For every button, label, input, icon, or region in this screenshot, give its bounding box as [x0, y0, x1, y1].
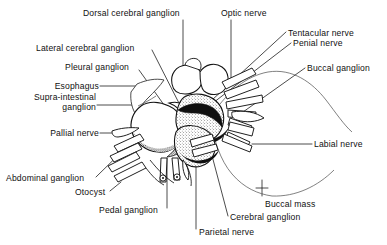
label-dorsal-cerebral-ganglion: Dorsal cerebral ganglion [83, 8, 180, 18]
label-buccal-mass: Buccal mass [265, 199, 315, 209]
label-penial-nerve: Penial nerve [293, 38, 343, 48]
label-tentacular-nerve: Tentacular nerve [288, 28, 354, 38]
label-supra-intestinal-ganglion: Supra-intestinal ganglion [0, 92, 96, 113]
label-esophagus: Esophagus [0, 81, 99, 91]
label-cerebral-ganglion: Cerebral ganglion [230, 212, 300, 222]
label-otocyst: Otocyst [75, 187, 105, 197]
label-abdominal-ganglion: Abdominal ganglion [6, 173, 84, 183]
label-buccal-ganglion: Buccal ganglion [307, 63, 370, 73]
label-labial-nerve: Labial nerve [314, 139, 363, 149]
label-parietal-nerve: Parietal nerve [199, 227, 254, 237]
label-pallial-nerve: Pallial nerve [0, 128, 99, 138]
label-lateral-cerebral-ganglion: Lateral cerebral ganglion [36, 43, 134, 53]
label-optic-nerve: Optic nerve [221, 8, 267, 18]
anatomical-figure: Dorsal cerebral ganglion Optic nerve Ten… [0, 0, 387, 245]
label-pleural-ganglion: Pleural ganglion [65, 62, 129, 72]
label-supra-intestinal-line2: ganglion [62, 102, 96, 112]
label-supra-intestinal-line1: Supra-intestinal [34, 92, 96, 102]
label-pedal-ganglion: Pedal ganglion [99, 205, 158, 215]
